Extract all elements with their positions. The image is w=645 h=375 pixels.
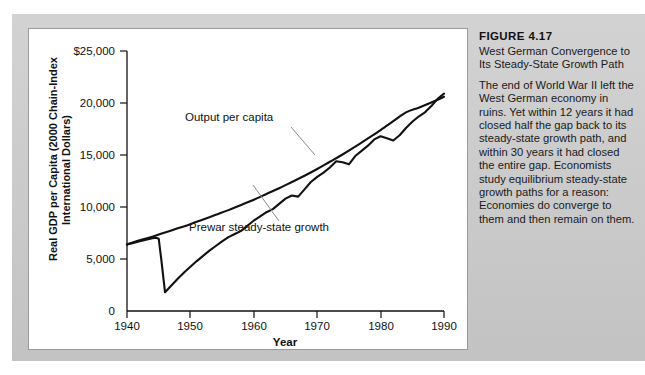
caption-title: FIGURE 4.17: [479, 30, 635, 42]
x-tick-label-1940: 1940: [114, 320, 140, 332]
x-tick-label-1990: 1990: [431, 320, 457, 332]
caption-body: The end of World War II left the West Ge…: [479, 79, 635, 226]
series-line-output-per-capita: [127, 94, 444, 293]
y-axis-ticks: [120, 51, 127, 259]
x-axis-ticks: [127, 311, 444, 318]
y-tick-label-0: 0: [109, 305, 115, 317]
line-chart: Real GDP per Capita (2000 Chain-Index In…: [29, 29, 467, 349]
series-annotation-prewar-steady-state: Prewar steady-state growth: [189, 221, 329, 233]
y-tick-label-5000: 5,000: [86, 253, 115, 265]
y-axis-title-line2: International Dollars): [60, 115, 72, 225]
y-tick-label-10000: 10,000: [80, 201, 115, 213]
y-axis-title-line1: Real GDP per Capita (2000 Chain-Index: [47, 56, 59, 261]
y-tick-label-15000: 15,000: [80, 149, 115, 161]
leader-line-output-per-capita: [291, 127, 315, 155]
x-tick-label-1950: 1950: [177, 320, 203, 332]
chart-panel: Real GDP per Capita (2000 Chain-Index In…: [28, 28, 468, 350]
y-tick-label-25000: $25,000: [73, 45, 115, 57]
x-tick-label-1980: 1980: [368, 320, 394, 332]
figure-caption: FIGURE 4.17 West German Convergence to I…: [479, 30, 635, 226]
x-tick-label-1960: 1960: [241, 320, 267, 332]
x-axis-title: Year: [273, 336, 298, 348]
series-annotation-output-per-capita: Output per capita: [185, 111, 274, 123]
y-tick-label-20000: 20,000: [80, 97, 115, 109]
x-tick-label-1970: 1970: [304, 320, 330, 332]
caption-subtitle: West German Convergence to Its Steady-St…: [479, 45, 635, 72]
figure-container: Real GDP per Capita (2000 Chain-Index In…: [0, 0, 645, 375]
